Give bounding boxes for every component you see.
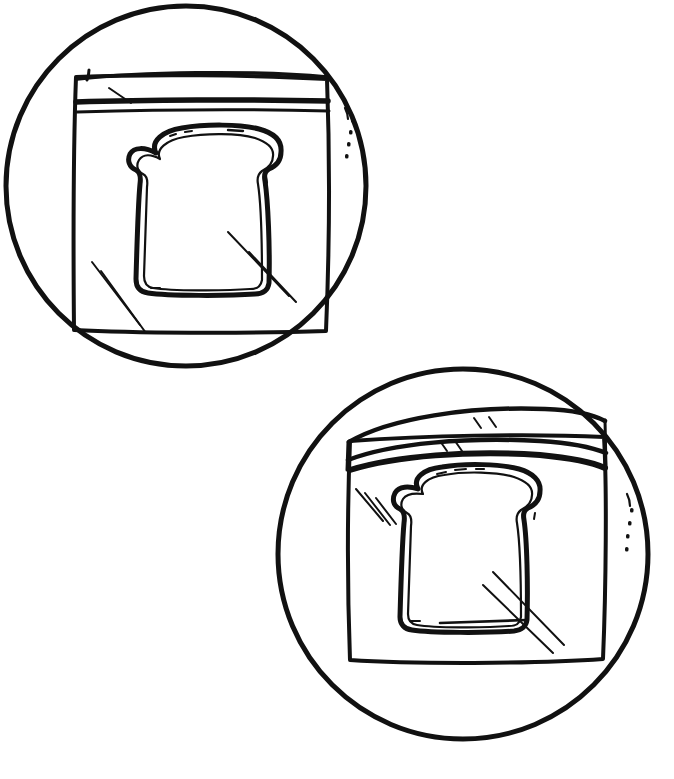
bread-shoulder-tick-right-1: [534, 513, 535, 519]
bag-flap-corner-nib-left: [347, 442, 348, 470]
rim-dash-2: [628, 521, 632, 526]
rim-dash-1: [351, 118, 355, 123]
bread-crown-tick-b: [185, 131, 192, 132]
rim-dash-1: [630, 508, 634, 513]
zipper-rail-upper: [76, 100, 328, 102]
bread-crown-tick-c: [228, 130, 243, 131]
rim-dash-4: [625, 547, 629, 552]
sketch-canvas: Sandwich bag with bread slice — two circ…: [0, 0, 674, 779]
bread-crown-tick-b: [455, 469, 466, 470]
line-art-illustration: [0, 0, 674, 779]
bag-flap-corner-nib-right: [605, 420, 606, 468]
rim-dash-3: [347, 142, 351, 147]
bread-shoulder-tick-right: [266, 176, 267, 183]
rim-dash-4: [345, 154, 349, 159]
rim-dash-3: [626, 534, 630, 539]
rim-dash-2: [349, 130, 353, 135]
